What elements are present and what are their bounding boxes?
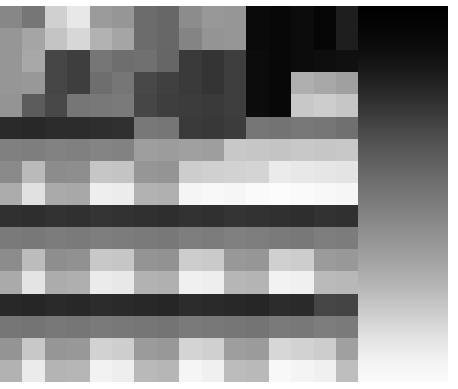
mosaic-cell — [0, 227, 22, 249]
mosaic-cell — [179, 117, 201, 139]
mosaic-cell — [90, 28, 112, 50]
mosaic-cell — [269, 360, 291, 382]
mosaic-cell — [179, 271, 201, 293]
mosaic-cell — [112, 183, 134, 205]
mosaic-cell — [22, 50, 44, 72]
mosaic-cell — [134, 50, 156, 72]
mosaic-cell — [314, 227, 336, 249]
mosaic-cell — [90, 249, 112, 271]
mosaic-cell — [90, 161, 112, 183]
mosaic-cell — [246, 249, 268, 271]
mosaic-cell — [224, 294, 246, 316]
mosaic-cell — [291, 294, 313, 316]
mosaic-cell — [269, 28, 291, 50]
mosaic-cell — [45, 338, 67, 360]
mosaic-cell — [0, 50, 22, 72]
mosaic-cell — [202, 183, 224, 205]
mosaic-cell — [291, 6, 313, 28]
mosaic-cell — [22, 28, 44, 50]
mosaic-cell — [246, 6, 268, 28]
mosaic-cell — [112, 28, 134, 50]
mosaic-cell — [269, 161, 291, 183]
mosaic-cell — [314, 139, 336, 161]
mosaic-cell — [112, 205, 134, 227]
mosaic-cell — [202, 294, 224, 316]
mosaic-cell — [22, 161, 44, 183]
mosaic-cell — [269, 6, 291, 28]
mosaic-cell — [179, 50, 201, 72]
mosaic-cell — [134, 6, 156, 28]
mosaic-cell — [246, 117, 268, 139]
mosaic-cell — [112, 94, 134, 116]
mosaic-cell — [112, 316, 134, 338]
right-white-margin — [448, 0, 458, 389]
mosaic-cell — [269, 227, 291, 249]
mosaic-cell — [269, 183, 291, 205]
mosaic-cell — [336, 316, 358, 338]
mosaic-cell — [90, 338, 112, 360]
mosaic-cell — [336, 94, 358, 116]
mosaic-cell — [90, 72, 112, 94]
mosaic-cell — [134, 205, 156, 227]
mosaic-cell — [112, 271, 134, 293]
mosaic-cell — [157, 316, 179, 338]
mosaic-cell — [0, 6, 22, 28]
mosaic-cell — [67, 94, 89, 116]
mosaic-cell — [22, 72, 44, 94]
mosaic-cell — [246, 294, 268, 316]
mosaic-cell — [157, 50, 179, 72]
mosaic-cell — [179, 360, 201, 382]
mosaic-cell — [291, 227, 313, 249]
mosaic-cell — [291, 249, 313, 271]
mosaic-cell — [336, 360, 358, 382]
mosaic-cell — [67, 183, 89, 205]
mosaic-cell — [269, 94, 291, 116]
mosaic-cell — [179, 316, 201, 338]
mosaic-cell — [202, 50, 224, 72]
mosaic-cell — [291, 161, 313, 183]
mosaic-cell — [224, 249, 246, 271]
mosaic-cell — [314, 271, 336, 293]
mosaic-cell — [67, 117, 89, 139]
mosaic-cell — [67, 28, 89, 50]
mosaic-cell — [246, 72, 268, 94]
mosaic-cell — [45, 161, 67, 183]
mosaic-cell — [67, 227, 89, 249]
mosaic-cell — [336, 338, 358, 360]
mosaic-cell — [22, 227, 44, 249]
top-white-margin — [0, 0, 458, 6]
mosaic-cell — [22, 183, 44, 205]
mosaic-cell — [67, 161, 89, 183]
mosaic-cell — [90, 360, 112, 382]
mosaic-cell — [45, 227, 67, 249]
mosaic-cell — [291, 183, 313, 205]
mosaic-cell — [291, 205, 313, 227]
mosaic-cell — [157, 28, 179, 50]
mosaic-cell — [45, 117, 67, 139]
mosaic-cell — [336, 72, 358, 94]
mosaic-cell — [45, 50, 67, 72]
mosaic-cell — [112, 50, 134, 72]
mosaic-cell — [246, 161, 268, 183]
mosaic-cell — [0, 72, 22, 94]
mosaic-cell — [224, 338, 246, 360]
mosaic-cell — [314, 72, 336, 94]
mosaic-cell — [134, 249, 156, 271]
mosaic-cell — [314, 50, 336, 72]
mosaic-cell — [179, 94, 201, 116]
mosaic-cell — [0, 205, 22, 227]
mosaic-cell — [246, 28, 268, 50]
mosaic-cell — [112, 117, 134, 139]
mosaic-cell — [67, 360, 89, 382]
mosaic-cell — [112, 139, 134, 161]
mosaic-cell — [224, 360, 246, 382]
mosaic-cell — [67, 338, 89, 360]
mosaic-cell — [291, 360, 313, 382]
mosaic-cell — [134, 360, 156, 382]
mosaic-cell — [90, 6, 112, 28]
mosaic-cell — [0, 94, 22, 116]
mosaic-cell — [269, 316, 291, 338]
mosaic-cell — [336, 249, 358, 271]
mosaic-cell — [90, 316, 112, 338]
mosaic-cell — [90, 50, 112, 72]
